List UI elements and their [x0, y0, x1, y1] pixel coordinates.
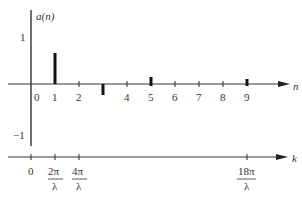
svg-text:λ: λ: [76, 180, 82, 192]
svg-text:1: 1: [52, 91, 58, 103]
n-axis-label: n: [293, 80, 299, 92]
svg-text:λ: λ: [52, 180, 58, 192]
n-axis-arrow-icon: [278, 81, 290, 87]
svg-text:4: 4: [124, 91, 130, 103]
stem-n1: [54, 53, 57, 84]
k-tick-0: 0: [28, 165, 34, 177]
k-tick-2pi: 2π λ: [48, 165, 63, 192]
svg-text:8: 8: [220, 91, 226, 103]
y-tick-1: 1: [20, 31, 26, 43]
stem-n3: [102, 84, 105, 95]
n-tick-labels: 0 1 2 4 5 6 7 8 9: [34, 91, 250, 103]
svg-text:λ: λ: [244, 180, 250, 192]
svg-text:5: 5: [148, 91, 154, 103]
svg-text:6: 6: [172, 91, 178, 103]
svg-text:18π: 18π: [238, 165, 255, 177]
y-tick-minus-1: −1: [13, 129, 25, 141]
svg-text:2π: 2π: [48, 165, 60, 177]
k-axis-arrow-icon: [276, 154, 288, 160]
stem-plot: a(n) 1 −1 n 0 1 2 4 5 6 7 8 9 k 0 2π λ 4…: [0, 0, 302, 201]
svg-text:9: 9: [244, 91, 250, 103]
svg-text:7: 7: [196, 91, 202, 103]
svg-text:0: 0: [34, 91, 40, 103]
k-axis-label: k: [292, 152, 298, 164]
k-tick-4pi: 4π λ: [72, 165, 87, 192]
svg-text:4π: 4π: [72, 165, 84, 177]
k-tick-18pi: 18π λ: [237, 165, 256, 192]
svg-text:2: 2: [76, 91, 82, 103]
stem-n5: [150, 77, 153, 86]
stem-n9: [246, 79, 249, 86]
y-axis-label: a(n): [36, 10, 55, 23]
